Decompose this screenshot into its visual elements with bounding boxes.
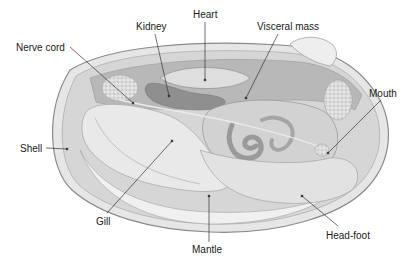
label-nerve-cord: Nerve cord: [16, 42, 65, 54]
label-mantle: Mantle: [192, 244, 222, 256]
label-head-foot: Head-foot: [326, 230, 370, 242]
label-shell: Shell: [20, 143, 42, 155]
label-heart: Heart: [193, 9, 217, 21]
label-mouth: Mouth: [369, 88, 397, 100]
anterior-adductor: [324, 80, 352, 120]
clam-anatomy-diagram: Heart Kidney Visceral mass Nerve cord Mo…: [0, 0, 418, 270]
label-kidney: Kidney: [136, 21, 167, 33]
posterior-adductor: [102, 75, 138, 101]
label-visceral-mass: Visceral mass: [257, 21, 319, 33]
label-gill: Gill: [96, 216, 110, 228]
